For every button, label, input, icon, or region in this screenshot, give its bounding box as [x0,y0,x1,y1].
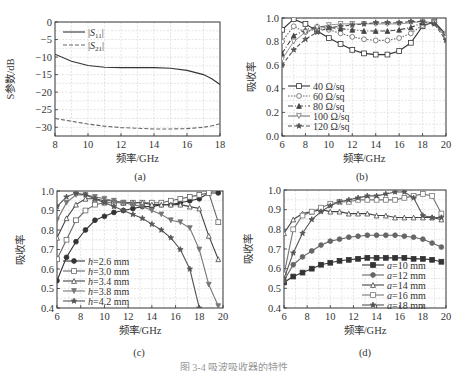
svg-text:20: 20 [218,311,229,322]
svg-text:−25: −25 [36,104,52,115]
svg-text:−10: −10 [36,52,52,63]
panel-label: (a) [134,171,146,183]
legend-entry: a=18 mm [387,300,426,311]
legend-entry: 120 Ω/sq [313,121,350,132]
series-group [279,17,448,68]
svg-text:0.4: 0.4 [268,303,282,314]
figure-canvas: 810121416180−5−10−15−20−25−30频率/GHzS参数/d… [0,0,468,371]
svg-text:8: 8 [52,139,57,150]
x-axis-label: 频率/GHz [344,324,387,336]
svg-text:0.8: 0.8 [266,36,279,47]
legend-entry: h=4.2 mm [88,296,129,307]
svg-text:8: 8 [305,311,310,322]
svg-text:0.7: 0.7 [268,244,281,255]
svg-text:16: 16 [394,311,405,322]
svg-text:18: 18 [417,139,428,150]
svg-text:16: 16 [182,139,193,150]
panel-label: (d) [359,347,372,359]
svg-text:0.2: 0.2 [266,107,279,118]
svg-text:0.7: 0.7 [41,244,54,255]
svg-text:14: 14 [371,311,382,322]
y-axis-label: 吸收率 [242,234,254,264]
svg-text:16: 16 [170,311,181,322]
svg-text:10: 10 [325,311,336,322]
svg-text:−5: −5 [41,34,52,45]
svg-text:0.9: 0.9 [41,205,54,216]
svg-text:0: 0 [47,17,52,28]
svg-text:1.0: 1.0 [268,185,281,196]
svg-text:0.8: 0.8 [41,225,54,236]
svg-text:8: 8 [78,311,83,322]
svg-text:6: 6 [54,311,59,322]
svg-text:20: 20 [441,139,452,150]
svg-text:10: 10 [99,311,110,322]
svg-text:20: 20 [441,311,452,322]
svg-text:0.6: 0.6 [268,263,281,274]
svg-text:1.0: 1.0 [266,13,279,24]
legend: 40 Ω/sq60 Ω/sq80 Ω/sq100 Ω/sq120 Ω/sq [288,81,350,132]
y-axis-label: 吸收率 [245,62,257,92]
chart-panel-a: 810121416180−5−10−15−20−25−30频率/GHzS参数/d… [4,17,225,184]
chart-panel-b: 681012141618200.00.20.40.60.81.0频率/GHz吸收… [245,13,451,184]
svg-text:10: 10 [83,139,94,150]
svg-text:12: 12 [123,311,134,322]
svg-text:0.0: 0.0 [266,131,279,142]
svg-text:−20: −20 [36,87,52,98]
grid [55,22,220,136]
svg-text:10: 10 [324,139,335,150]
legend-entry: |S11| [88,27,104,40]
series-group [54,190,220,310]
svg-text:14: 14 [370,139,381,150]
svg-text:14: 14 [149,139,160,150]
svg-text:−30: −30 [36,122,52,133]
svg-text:1.0: 1.0 [41,186,54,197]
x-axis-label: 频率/GHz [116,152,159,164]
svg-text:18: 18 [194,311,205,322]
chart-panel-d: 681012141618200.40.50.60.70.80.91.0频率/GH… [242,185,451,360]
svg-text:12: 12 [347,139,358,150]
svg-text:12: 12 [348,311,359,322]
panel-label: (c) [133,347,145,359]
svg-text:14: 14 [147,311,158,322]
svg-text:0.9: 0.9 [268,204,281,215]
svg-text:18: 18 [215,139,226,150]
svg-text:−15: −15 [36,69,52,80]
svg-text:0.4: 0.4 [266,83,280,94]
x-axis-label: 频率/GHz [343,152,386,164]
panel-label: (b) [356,171,369,183]
legend-entry: |S21| [88,40,104,53]
svg-text:12: 12 [116,139,127,150]
svg-text:0.5: 0.5 [268,283,281,294]
figure-caption: 图 3-4 吸波吸收器的特性 [0,359,468,371]
series-line [57,195,218,306]
svg-text:16: 16 [394,139,405,150]
svg-text:0.4: 0.4 [41,303,55,314]
x-axis-label: 频率/GHz [119,324,162,336]
svg-text:0.6: 0.6 [266,60,279,71]
grid [282,18,446,136]
svg-text:0.8: 0.8 [268,224,281,235]
svg-text:8: 8 [303,139,308,150]
y-axis-label: S参数/dB [4,58,16,99]
chart-panel-c: 681012141618200.40.50.60.70.80.91.0频率/GH… [14,186,228,360]
legend: a=10 mma=12 mma=14 mma=16 mma=18 mm [362,260,426,311]
svg-text:0.5: 0.5 [41,283,54,294]
legend: h=2.6 mmh=3.0 mmh=3.4 mmh=3.8 mmh=4.2 mm [63,256,129,307]
svg-text:0.6: 0.6 [41,264,54,275]
svg-text:6: 6 [281,311,286,322]
svg-text:6: 6 [279,139,284,150]
y-axis-label: 吸收率 [14,235,26,265]
svg-text:18: 18 [418,311,429,322]
